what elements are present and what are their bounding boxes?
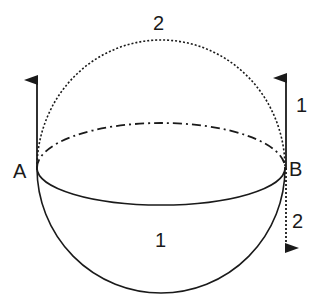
sphere-diagram: 2 A B 1 2 1 — [0, 0, 322, 308]
label-arrow-b-up: 1 — [296, 94, 307, 116]
label-arrow-b-down: 2 — [292, 210, 303, 232]
equator-front-solid — [37, 168, 285, 205]
label-point-a: A — [13, 160, 27, 182]
label-top-hemisphere: 2 — [153, 12, 164, 34]
label-bottom-hemisphere: 1 — [155, 229, 166, 251]
equator-back-dashdot — [37, 123, 285, 168]
label-point-b: B — [289, 158, 302, 180]
upper-arc-dotted — [37, 40, 285, 168]
